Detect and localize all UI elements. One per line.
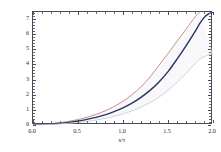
y-minor-tick-right: [209, 70, 211, 71]
x-minor-tick-top: [195, 12, 196, 14]
y-minor-tick: [33, 25, 35, 26]
y-minor-tick-right: [209, 43, 211, 44]
y-minor-tick: [33, 70, 35, 71]
y-minor-tick-right: [209, 107, 211, 108]
y-major-tick: [33, 125, 36, 126]
y-tick-label: 1: [22, 106, 29, 112]
y-minor-tick: [33, 61, 35, 62]
x-minor-tick-top: [69, 12, 70, 14]
y-major-tick-right: [208, 110, 211, 111]
y-minor-tick-right: [209, 28, 211, 29]
y-tick-label: 2: [22, 91, 29, 97]
x-tick-label: 2.0: [208, 128, 216, 134]
x-minor-tick: [204, 121, 205, 123]
y-minor-tick-right: [209, 46, 211, 47]
y-tick-label: 5: [22, 45, 29, 51]
x-minor-tick-top: [141, 12, 142, 14]
y-minor-tick: [33, 98, 35, 99]
y-minor-tick: [33, 13, 35, 14]
y-minor-tick: [33, 58, 35, 59]
x-minor-tick: [42, 121, 43, 123]
y-minor-tick: [33, 16, 35, 17]
x-minor-tick: [177, 121, 178, 123]
y-major-tick: [33, 95, 36, 96]
y-minor-tick: [33, 86, 35, 87]
x-tick-label: 0.0: [28, 128, 36, 134]
x-major-tick: [123, 120, 124, 123]
x-major-tick-top: [123, 12, 124, 15]
x-minor-tick: [132, 121, 133, 123]
x-minor-tick: [96, 121, 97, 123]
plot-area: [32, 11, 212, 124]
x-axis-title: s/τ: [118, 137, 125, 144]
x-minor-tick-top: [96, 12, 97, 14]
x-minor-tick: [87, 121, 88, 123]
y-major-tick: [33, 34, 36, 35]
y-tick-label: 6: [22, 30, 29, 36]
y-minor-tick: [33, 119, 35, 120]
y-minor-tick-right: [209, 86, 211, 87]
y-minor-tick: [33, 40, 35, 41]
y-tick-label: 3: [22, 75, 29, 81]
y-minor-tick: [33, 92, 35, 93]
y-major-tick: [33, 19, 36, 20]
y-minor-tick: [33, 52, 35, 53]
y-major-tick: [33, 49, 36, 50]
y-minor-tick: [33, 122, 35, 123]
x-minor-tick: [159, 121, 160, 123]
y-major-tick-right: [208, 80, 211, 81]
x-major-tick-top: [168, 12, 169, 15]
y-minor-tick-right: [209, 92, 211, 93]
y-minor-tick: [33, 116, 35, 117]
y-minor-tick: [33, 46, 35, 47]
y-major-tick: [33, 64, 36, 65]
y-tick-label: 7: [22, 15, 29, 21]
y-minor-tick: [33, 67, 35, 68]
chart-figure: 0.00.51.01.52.0 01234567 s/τ h in μm: [0, 0, 221, 152]
y-major-tick-right: [208, 125, 211, 126]
x-minor-tick-top: [159, 12, 160, 14]
x-minor-tick: [51, 121, 52, 123]
x-tick-label: 1.5: [163, 128, 171, 134]
y-minor-tick: [33, 101, 35, 102]
y-minor-tick: [33, 31, 35, 32]
x-minor-tick: [69, 121, 70, 123]
y-minor-tick: [33, 55, 35, 56]
y-minor-tick-right: [209, 98, 211, 99]
y-minor-tick-right: [209, 58, 211, 59]
y-minor-tick-right: [209, 101, 211, 102]
x-minor-tick: [195, 121, 196, 123]
y-minor-tick: [33, 113, 35, 114]
x-major-tick-top: [78, 12, 79, 15]
y-minor-tick-right: [209, 67, 211, 68]
x-minor-tick-top: [132, 12, 133, 14]
chart-svg: [33, 12, 213, 125]
x-minor-tick-top: [204, 12, 205, 14]
y-major-tick-right: [208, 19, 211, 20]
y-minor-tick-right: [209, 31, 211, 32]
x-minor-tick: [150, 121, 151, 123]
y-minor-tick-right: [209, 89, 211, 90]
x-tick-label: 1.0: [118, 128, 126, 134]
y-minor-tick: [33, 28, 35, 29]
x-tick-label: 0.5: [73, 128, 81, 134]
y-minor-tick: [33, 22, 35, 23]
y-minor-tick-right: [209, 55, 211, 56]
y-major-tick-right: [208, 49, 211, 50]
y-minor-tick: [33, 107, 35, 108]
y-minor-tick-right: [209, 122, 211, 123]
x-major-tick: [168, 120, 169, 123]
y-tick-label: 4: [22, 60, 29, 66]
y-minor-tick-right: [209, 119, 211, 120]
y-minor-tick-right: [209, 16, 211, 17]
y-tick-label: 0: [22, 121, 29, 127]
x-minor-tick-top: [42, 12, 43, 14]
y-major-tick-right: [208, 34, 211, 35]
y-minor-tick-right: [209, 76, 211, 77]
y-minor-tick-right: [209, 40, 211, 41]
x-minor-tick-top: [114, 12, 115, 14]
y-major-tick-right: [208, 64, 211, 65]
x-minor-tick-top: [186, 12, 187, 14]
x-major-tick-top: [213, 12, 214, 15]
x-minor-tick-top: [51, 12, 52, 14]
